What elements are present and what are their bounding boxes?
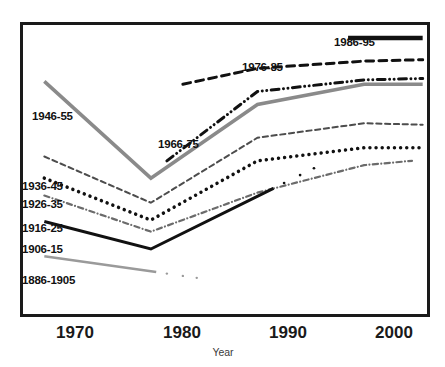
series-label-1966-75: 1966-75 bbox=[158, 138, 199, 150]
series-trailing-dot-1906-15 bbox=[299, 174, 302, 177]
series-label-1906-15: 1906-15 bbox=[22, 243, 63, 255]
series-trailing-dot-1906-15 bbox=[313, 167, 316, 170]
series-line-1966-75 bbox=[167, 78, 423, 160]
series-label-1886-1905: 1886-1905 bbox=[22, 274, 75, 286]
series-label-1936-45: 1936-45 bbox=[22, 180, 63, 192]
series-line-1916-25 bbox=[44, 161, 412, 232]
series-trailing-dot-1886-1905 bbox=[196, 277, 198, 279]
chart-lines-layer bbox=[0, 0, 445, 367]
xtick-label-1970: 1970 bbox=[56, 323, 94, 343]
chart-root: 1946-55 1936-45 1926-35 1916-25 1906-15 … bbox=[0, 0, 445, 367]
series-label-1986-95: 1986-95 bbox=[334, 36, 375, 48]
x-axis-title: Year bbox=[212, 346, 233, 358]
series-line-1946-55 bbox=[44, 81, 422, 178]
xtick-label-1990: 1990 bbox=[269, 323, 307, 343]
series-label-1916-25: 1916-25 bbox=[22, 222, 63, 234]
series-label-1926-35: 1926-35 bbox=[22, 198, 63, 210]
series-label-1976-85: 1976-85 bbox=[242, 61, 283, 73]
series-line-1976-85 bbox=[183, 60, 423, 85]
series-line-1886-1905 bbox=[44, 256, 156, 272]
xtick-label-1980: 1980 bbox=[163, 323, 201, 343]
series-label-1946-55: 1946-55 bbox=[32, 110, 73, 122]
xtick-label-2000: 2000 bbox=[375, 323, 413, 343]
series-trailing-dot-1886-1905 bbox=[166, 272, 168, 274]
series-trailing-dot-1906-15 bbox=[283, 182, 286, 185]
series-trailing-dot-1886-1905 bbox=[182, 275, 184, 277]
